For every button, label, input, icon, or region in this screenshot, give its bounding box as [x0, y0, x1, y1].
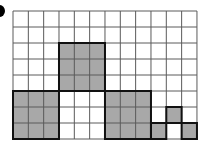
small-square-b-fill — [166, 107, 181, 123]
right-square-block-fill — [105, 91, 151, 139]
left-square-block-fill — [13, 91, 59, 139]
tall-square-block-fill — [59, 43, 105, 91]
small-square-a-fill — [151, 123, 166, 139]
bullet-dot-icon — [0, 5, 5, 17]
grid-diagram — [12, 10, 198, 142]
small-square-c-fill — [182, 123, 197, 139]
grid-svg — [12, 10, 198, 142]
